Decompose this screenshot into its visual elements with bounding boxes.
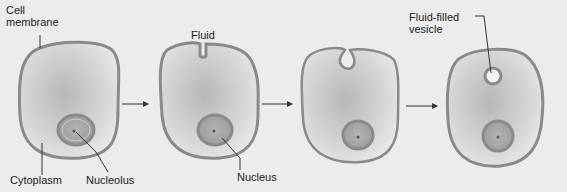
label-cell-membrane: Cell membrane <box>6 4 59 28</box>
nucleolus <box>73 130 76 133</box>
cell-stage-4 <box>447 16 543 166</box>
label-nucleus: Nucleus <box>237 171 277 183</box>
label-nucleolus: Nucleolus <box>86 174 134 186</box>
cell-stage-3 <box>302 48 399 162</box>
cell-stage-1 <box>19 11 118 175</box>
label-text: Cell <box>6 4 59 16</box>
cell-stage-2 <box>160 43 258 170</box>
label-fluid-filled-vesicle: Fluid-filled vesicle <box>409 11 459 35</box>
label-cytoplasm: Cytoplasm <box>10 174 62 186</box>
label-text: Fluid-filled <box>409 11 459 23</box>
label-text: membrane <box>6 16 59 28</box>
nucleus <box>343 121 373 149</box>
diagram-graphics <box>0 0 567 192</box>
fluid-filled-vesicle <box>485 68 501 84</box>
label-text: vesicle <box>409 23 459 35</box>
label-fluid: Fluid <box>191 29 215 41</box>
pinocytosis-diagram: Cell membrane Cytoplasm Nucleolus Fluid … <box>0 0 567 192</box>
